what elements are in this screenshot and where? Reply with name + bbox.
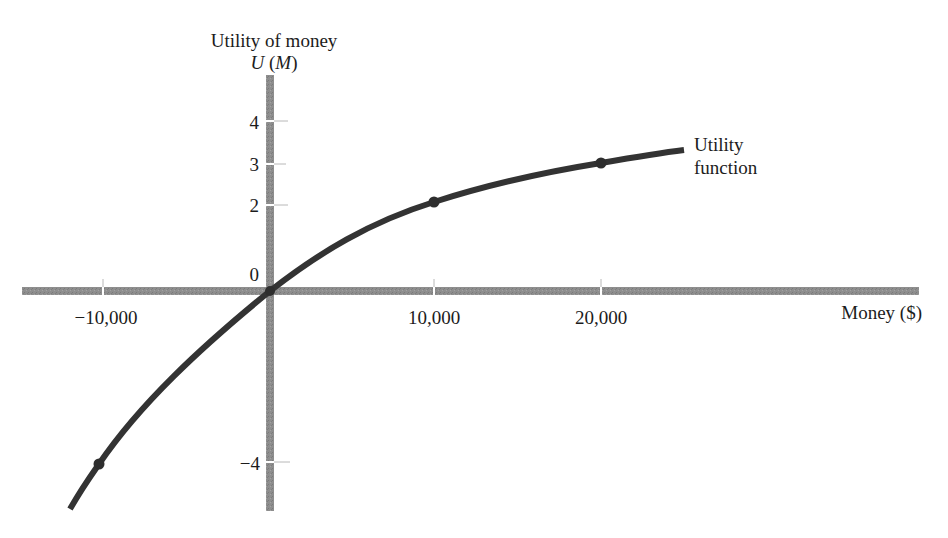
point-m10000 — [94, 459, 105, 470]
x-tick-label-neg10000: −10,000 — [51, 307, 161, 329]
x-tick-label-20000: 20,000 — [546, 307, 656, 329]
y-tick-label-2: 2 — [229, 195, 259, 217]
y-tick-label-neg4: −4 — [230, 453, 260, 475]
series-label: Utility function — [694, 133, 757, 179]
utility-chart: Utility of money U (M) 4 3 2 0 −4 −10,00… — [0, 0, 948, 538]
y-axis-symbol: U (M) — [186, 52, 362, 74]
series-label-line2: function — [694, 156, 757, 179]
y-tick-label-0: 0 — [229, 264, 259, 286]
data-points — [94, 158, 607, 470]
x-tick-label-10000: 10,000 — [379, 307, 489, 329]
y-symbol-u: U — [251, 52, 265, 73]
point-10000 — [429, 197, 440, 208]
y-symbol-m: M — [275, 52, 291, 73]
series-label-line1: Utility — [694, 133, 757, 156]
y-symbol-close: ) — [291, 52, 297, 73]
point-0 — [265, 286, 275, 296]
y-tick-label-3: 3 — [229, 154, 259, 176]
x-axis-title: Money ($) — [820, 302, 922, 324]
utility-curve — [70, 150, 684, 509]
y-axis-title: Utility of money — [186, 30, 362, 52]
chart-canvas — [0, 0, 948, 538]
y-symbol-open: ( — [264, 52, 275, 73]
y-tick-label-4: 4 — [229, 112, 259, 134]
x-axis — [22, 287, 919, 295]
point-20000 — [596, 158, 607, 169]
